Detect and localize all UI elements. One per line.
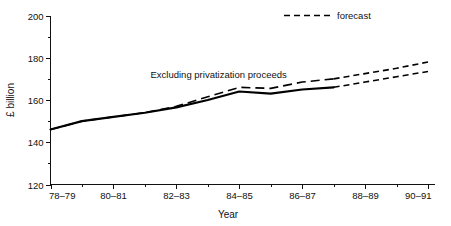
x-axis-tick-label: 84–85	[226, 190, 252, 201]
y-axis-tick-label: 160	[28, 95, 44, 106]
x-axis-tick-label: 88–89	[352, 190, 378, 201]
legend-forecast-label: forecast	[337, 10, 371, 21]
x-axis-tick-label: 86–87	[289, 190, 315, 201]
x-axis-tick-labels: 78–7980–8182–8384–8586–8788–8990–91	[49, 190, 432, 201]
series-forecast-excluding-privatization	[334, 71, 428, 87]
x-axis-tick-label: 90–91	[405, 190, 431, 201]
chart-container: 200180160140120 78–7980–8182–8384–8586–8…	[0, 0, 451, 226]
x-axis-tick-label: 78–79	[49, 190, 75, 201]
annotation-excluding-privatization: Excluding privatization proceeds	[151, 69, 287, 80]
y-axis-tick-label: 200	[28, 11, 44, 22]
x-axis-title: Year	[218, 209, 239, 220]
x-axis-tick-label: 82–83	[163, 190, 189, 201]
y-axis-tick-label: 180	[28, 53, 44, 64]
series-forecast-total	[334, 62, 428, 79]
y-axis-title: £ billion	[5, 83, 16, 117]
x-axis-tick-label: 80–81	[100, 190, 126, 201]
y-axis-tick-label: 140	[28, 137, 44, 148]
legend: forecast	[284, 10, 371, 21]
y-axis-tick-labels: 200180160140120	[28, 11, 44, 191]
x-axis-ticks	[52, 185, 429, 190]
y-axis-tick-label: 120	[28, 180, 44, 191]
axes-group	[51, 16, 435, 185]
line-chart: 200180160140120 78–7980–8182–8384–8586–8…	[0, 0, 451, 226]
series-line-excluding-privatization	[51, 87, 334, 129]
y-axis-ticks	[46, 17, 51, 186]
